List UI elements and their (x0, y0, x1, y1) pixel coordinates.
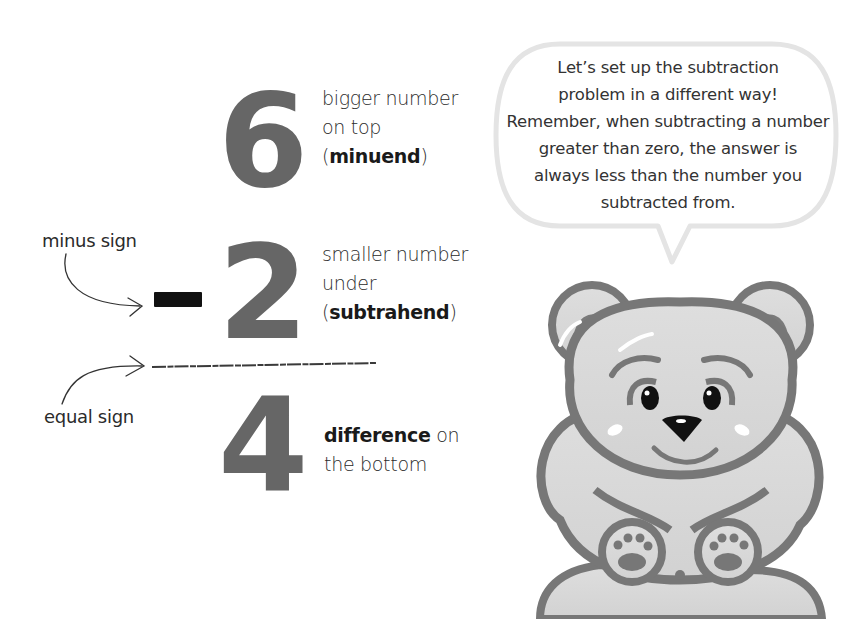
minuend-label-term-line: (minuend) (322, 142, 458, 171)
subtrahend-label-line1: smaller number (322, 240, 468, 269)
equal-arrow-icon (62, 356, 144, 404)
right-paw-icon (698, 522, 758, 582)
bear-illustration-icon (520, 270, 842, 619)
difference-label-line2: the bottom (324, 450, 459, 479)
difference-label-rest: on (430, 424, 459, 446)
subtrahend-label-term-line: (subtrahend) (322, 298, 468, 327)
bubble-line: greater than zero, the answer is (498, 135, 838, 162)
minuend-label: bigger number on top (minuend) (322, 84, 458, 171)
paren-close: ) (449, 301, 456, 323)
minuend-label-line1: bigger number (322, 84, 458, 113)
bubble-line: Let’s set up the subtraction (498, 54, 838, 81)
minus-sign-label: minus sign (42, 230, 137, 251)
speech-bubble-text: Let’s set up the subtraction problem in … (498, 54, 838, 216)
minuend-term: minuend (329, 145, 420, 167)
minuend-label-line2: on top (322, 113, 458, 142)
subtraction-line (152, 363, 376, 367)
difference-label: difference on the bottom (324, 421, 459, 479)
bubble-line: always less than the number you (498, 162, 838, 189)
difference-term: difference (324, 424, 430, 446)
difference-label-line1: difference on (324, 421, 459, 450)
paren-close: ) (420, 145, 427, 167)
subtrahend-label-line2: under (322, 269, 468, 298)
subtrahend-term: subtrahend (329, 301, 449, 323)
equal-sign-label: equal sign (44, 406, 134, 427)
minus-arrow-icon (65, 254, 142, 316)
bubble-line: problem in a different way! (498, 81, 838, 108)
subtrahend-label: smaller number under (subtrahend) (322, 240, 468, 327)
left-paw-icon (602, 522, 662, 582)
bubble-line: Remember, when subtracting a number (498, 108, 838, 135)
bubble-line: subtracted from. (498, 189, 838, 216)
